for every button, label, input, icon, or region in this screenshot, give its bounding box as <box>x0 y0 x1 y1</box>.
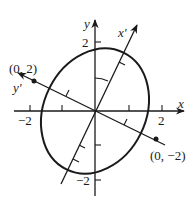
rotation-angle-arc <box>95 78 108 81</box>
x-prime-axis-label: x' <box>117 25 127 40</box>
y-prime-axis-label: y' <box>11 80 22 95</box>
y-prime-tick <box>124 119 127 125</box>
point-0-2 <box>32 79 37 84</box>
x-prime-tick <box>119 62 125 65</box>
point-label-0-neg2: (0, −2) <box>150 148 186 163</box>
x-prime-tick <box>73 159 79 162</box>
rotated-ellipse-diagram: x y x' y' 2 −2 −2 2 (0, 2) (0, −2) <box>0 0 196 200</box>
y-prime-axis <box>18 73 165 145</box>
y-axis-label: y <box>82 16 90 31</box>
x-axis-label: x <box>177 96 184 111</box>
x-tick-label-2: 2 <box>158 113 165 128</box>
point-label-0-2: (0, 2) <box>9 61 37 76</box>
y-tick-label-neg2: −2 <box>76 173 90 188</box>
y-tick-label-2: 2 <box>82 35 89 50</box>
y-prime-ticks <box>66 90 127 125</box>
y-prime-tick <box>66 90 69 96</box>
x-tick-label-neg2: −2 <box>18 113 32 128</box>
point-0-neg2 <box>154 137 159 142</box>
x-prime-tick <box>79 145 85 148</box>
